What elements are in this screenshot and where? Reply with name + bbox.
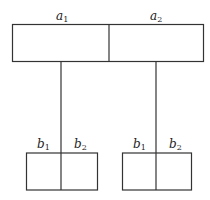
label-a2: a2	[150, 9, 162, 24]
tree-diagram: a1 a2 b1 b2 b1 b2	[0, 0, 210, 200]
bottom-right-node: b1 b2	[123, 137, 192, 190]
bottom-left-box	[27, 153, 98, 190]
bottom-left-node: b1 b2	[27, 137, 98, 190]
label-a1: a1	[56, 9, 68, 24]
top-node: a1 a2	[13, 9, 204, 62]
label-right-b2: b2	[169, 137, 182, 152]
top-box	[13, 25, 204, 62]
label-left-b2: b2	[74, 137, 87, 152]
bottom-right-box	[123, 153, 192, 190]
label-left-b1: b1	[37, 137, 50, 152]
label-right-b1: b1	[133, 137, 146, 152]
